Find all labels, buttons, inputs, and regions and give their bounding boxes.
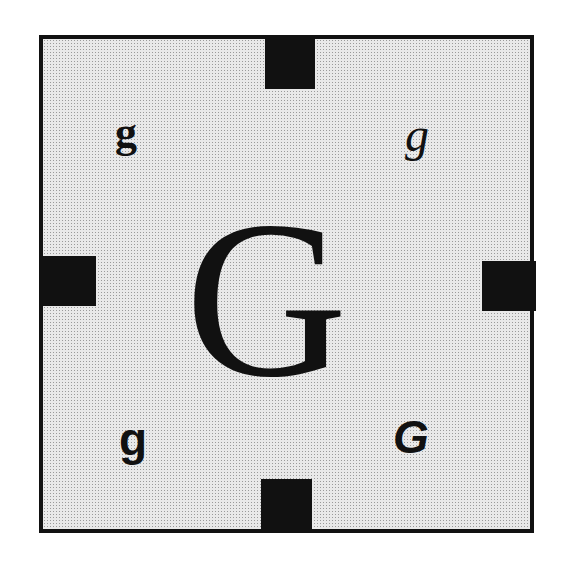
top-tab	[265, 37, 315, 89]
square-frame: g g g G G	[39, 35, 534, 533]
corner-letter-bottom-left: g	[119, 416, 147, 462]
corner-letter-bottom-right: G	[393, 414, 429, 460]
bottom-tab	[261, 479, 312, 532]
right-tab	[482, 261, 536, 311]
corner-letter-top-right: g	[405, 111, 429, 159]
center-letter: G	[185, 187, 348, 412]
left-tab	[41, 256, 96, 306]
corner-letter-top-left: g	[115, 111, 137, 155]
